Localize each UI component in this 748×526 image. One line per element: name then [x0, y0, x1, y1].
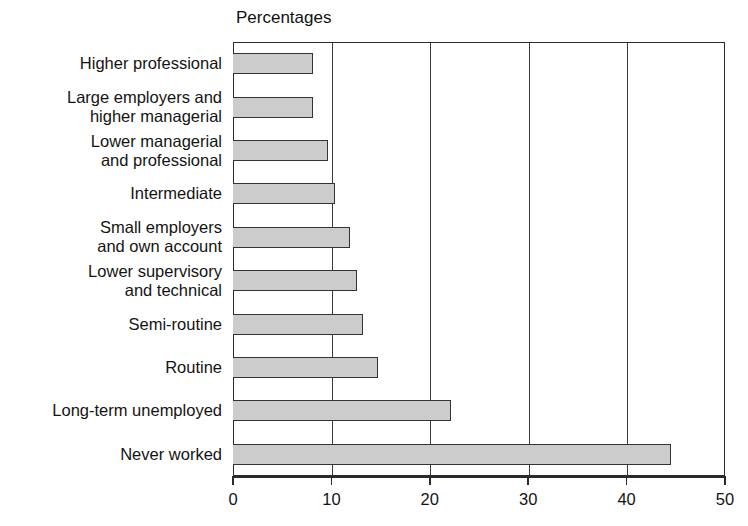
- category-label: Higher professional: [0, 54, 222, 73]
- category-label: Semi-routine: [0, 315, 222, 334]
- bar: [233, 270, 357, 291]
- bar-chart: Percentages Higher professionalLarge emp…: [0, 0, 748, 526]
- x-axis-tick-label: 40: [617, 489, 635, 509]
- category-label: Long-term unemployed: [0, 401, 222, 420]
- category-label: Lower supervisory and technical: [0, 262, 222, 300]
- bar: [233, 227, 350, 248]
- bar: [233, 97, 313, 118]
- x-axis-tick-label: 0: [228, 489, 237, 509]
- bar: [233, 53, 313, 74]
- x-axis-tick-label: 50: [716, 489, 734, 509]
- x-axis-tick: [232, 476, 234, 485]
- x-axis-line: [233, 476, 725, 478]
- category-label: Lower managerial and professional: [0, 132, 222, 170]
- bar: [233, 140, 328, 161]
- x-axis-tick: [331, 476, 333, 485]
- x-axis-tick: [429, 476, 431, 485]
- bar: [233, 444, 671, 465]
- x-axis-tick-label: 20: [421, 489, 439, 509]
- category-label: Small employers and own account: [0, 218, 222, 256]
- x-axis-tick-label: 10: [322, 489, 340, 509]
- x-axis-tick: [724, 476, 726, 485]
- category-axis-labels: Higher professionalLarge employers and h…: [0, 42, 228, 476]
- category-label: Routine: [0, 358, 222, 377]
- x-axis-tick-label: 30: [519, 489, 537, 509]
- category-label: Intermediate: [0, 184, 222, 203]
- x-axis-tick: [527, 476, 529, 485]
- bar: [233, 183, 335, 204]
- bar: [233, 357, 378, 378]
- bar: [233, 314, 363, 335]
- x-axis-tick: [626, 476, 628, 485]
- category-label: Large employers and higher managerial: [0, 88, 222, 126]
- bars-layer: [233, 42, 725, 476]
- category-label: Never worked: [0, 445, 222, 464]
- chart-title: Percentages: [236, 8, 331, 28]
- bar: [233, 400, 451, 421]
